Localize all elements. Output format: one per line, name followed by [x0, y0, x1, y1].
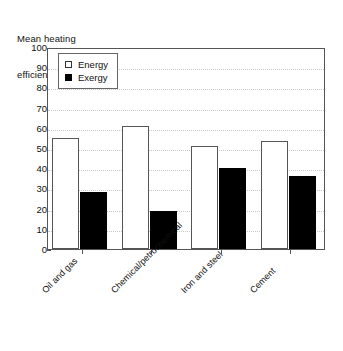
legend-item-energy[interactable]: Energy — [65, 58, 108, 71]
x-tick-mark-4 — [290, 250, 291, 254]
open-square-icon — [65, 61, 72, 68]
y-tick-label-80: 80 — [21, 84, 47, 94]
x-axis-tick-marks — [47, 250, 325, 256]
x-tick-mark-1 — [82, 250, 83, 254]
gridline-80 — [48, 89, 324, 90]
chart-legend: EnergyExergy — [58, 53, 118, 89]
y-tick-label-60: 60 — [21, 124, 47, 134]
y-tick-label-40: 40 — [21, 164, 47, 174]
bar-exergy-1 — [80, 192, 107, 249]
legend-label-energy: Energy — [78, 60, 108, 70]
bar-exergy-4 — [289, 176, 316, 249]
legend-item-exergy[interactable]: Exergy — [65, 71, 108, 84]
x-tick-label-3: Iron and steel — [179, 249, 225, 295]
y-tick-label-20: 20 — [21, 205, 47, 215]
x-tick-label-1: Oil and gas — [40, 256, 79, 295]
y-tick-label-0: 0 — [21, 245, 47, 255]
x-tick-label-4: Cement — [248, 266, 277, 295]
y-tick-label-10: 10 — [21, 225, 47, 235]
y-tick-label-30: 30 — [21, 185, 47, 195]
bar-energy-1 — [52, 138, 79, 249]
y-tick-label-90: 90 — [21, 63, 47, 73]
y-tick-label-70: 70 — [21, 104, 47, 114]
bar-energy-4 — [261, 141, 288, 249]
bar-energy-2 — [122, 126, 149, 249]
bar-exergy-3 — [219, 168, 246, 249]
bar-chart: Mean heating efficiencies (%) 0102030405… — [0, 0, 343, 351]
gridline-60 — [48, 130, 324, 131]
y-axis-tick-labels: 0102030405060708090100 — [17, 48, 47, 250]
bar-energy-3 — [191, 146, 218, 249]
y-tick-label-50: 50 — [21, 144, 47, 154]
y-tick-label-100: 100 — [21, 43, 47, 53]
filled-square-icon — [65, 74, 72, 81]
legend-label-exergy: Exergy — [78, 73, 108, 83]
gridline-70 — [48, 110, 324, 111]
